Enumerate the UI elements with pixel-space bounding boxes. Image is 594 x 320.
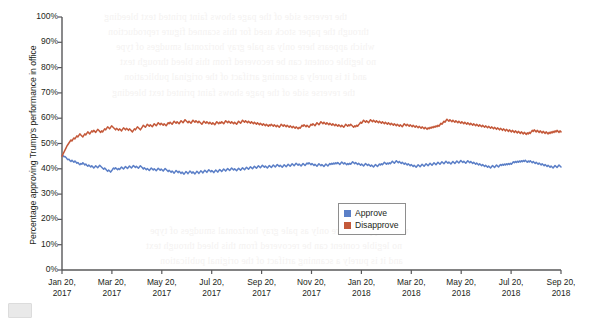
approval-rating-line-chart: Percentage approving Trump's performance… bbox=[0, 0, 594, 320]
x-tick-label-date: Sep 20, bbox=[531, 277, 591, 288]
legend-item-approve[interactable]: Approve bbox=[344, 207, 398, 219]
x-tick-label: Sep 20,2018 bbox=[531, 277, 591, 298]
x-tick-label-year: 2018 bbox=[531, 288, 591, 299]
legend-swatch-icon bbox=[344, 210, 351, 217]
chart-legend[interactable]: ApproveDisapprove bbox=[338, 203, 406, 235]
legend-label: Approve bbox=[355, 208, 387, 218]
x-axis-tick-labels: Jan 20,2017Mar 20,2017May 20,2017Jul 20,… bbox=[0, 0, 594, 320]
legend-swatch-icon bbox=[344, 222, 351, 229]
legend-item-disapprove[interactable]: Disapprove bbox=[344, 219, 398, 231]
legend-label: Disapprove bbox=[355, 220, 398, 230]
page-corner-artifact bbox=[8, 303, 32, 318]
